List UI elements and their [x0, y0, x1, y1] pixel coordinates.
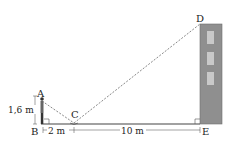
- point-label-A: A: [36, 88, 45, 99]
- point-label-E: E: [202, 126, 209, 137]
- point-label-B: B: [31, 126, 38, 137]
- sight-line-AC: [42, 101, 74, 123]
- distance-BC-label: 2 m: [48, 126, 66, 136]
- building-window: [207, 52, 214, 65]
- right-angle-mark-E: [195, 119, 200, 124]
- height-label: 1,6 m: [8, 105, 34, 115]
- point-label-C: C: [71, 109, 79, 120]
- building-window: [207, 72, 214, 85]
- point-label-D: D: [196, 13, 204, 24]
- sight-line-CD: [74, 24, 200, 123]
- building-window: [207, 31, 214, 44]
- mirror-reflection-diagram: 1,6 m 2 m 10 m A B C D E: [0, 0, 236, 151]
- right-angle-mark-B: [44, 119, 49, 124]
- distance-CE-label: 10 m: [121, 126, 144, 136]
- person-icon: [40, 97, 44, 124]
